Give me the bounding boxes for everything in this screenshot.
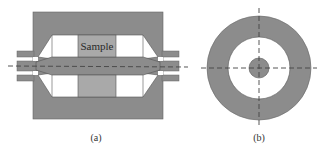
left-gap-2 (33, 71, 38, 75)
right-outlet-lower (162, 75, 179, 81)
panel-a-cross-section: Sample (a) (8, 12, 188, 144)
right-outlet-core (159, 61, 179, 71)
panel-a-label: (a) (90, 132, 101, 144)
left-inlet-lower (17, 75, 34, 81)
right-gap-2 (158, 71, 163, 75)
central-rod (36, 57, 160, 75)
panel-b-end-view: (b) (201, 8, 317, 144)
right-gap (158, 57, 163, 61)
sample-label: Sample (81, 40, 114, 52)
figure-canvas: Sample (a) (b) (0, 0, 325, 152)
left-gap (33, 57, 38, 61)
panel-b-label: (b) (253, 132, 265, 144)
right-outlet-upper (162, 51, 179, 57)
left-inlet-upper (17, 51, 34, 57)
sample-lower (78, 75, 116, 97)
